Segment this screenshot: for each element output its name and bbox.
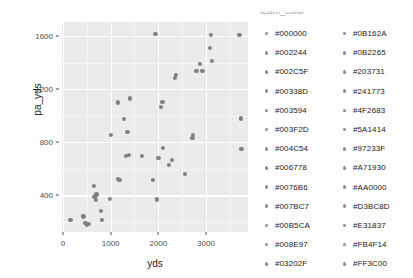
y-tick-label: 400 bbox=[40, 191, 53, 200]
x-tick-label: 0 bbox=[61, 239, 65, 248]
data-point bbox=[174, 72, 178, 76]
legend-item-label: #AA0000 bbox=[353, 183, 387, 192]
legend-key-point-icon bbox=[336, 159, 353, 176]
legend-key-point-icon bbox=[258, 25, 275, 42]
grid-line-minor-vertical bbox=[230, 22, 231, 232]
x-axis-title: yds bbox=[62, 258, 248, 269]
legend-item[interactable]: #241773 bbox=[336, 82, 413, 101]
legend-key-point-icon bbox=[258, 83, 275, 100]
legend-item[interactable]: #5A1414 bbox=[336, 120, 413, 139]
y-tick-label: 800 bbox=[40, 138, 53, 147]
x-tick-label: 1000 bbox=[102, 239, 120, 248]
legend-key-point-icon bbox=[336, 121, 353, 138]
x-tick-mark bbox=[158, 232, 159, 235]
legend-item-label: #003594 bbox=[275, 106, 307, 115]
data-point bbox=[125, 130, 129, 134]
legend-key-point-icon bbox=[258, 236, 275, 253]
legend-key-point-icon bbox=[336, 255, 353, 272]
legend-item[interactable]: #0B162A bbox=[336, 24, 413, 43]
data-point bbox=[200, 69, 204, 73]
legend-item[interactable]: #00B5CA bbox=[258, 216, 336, 235]
data-point bbox=[140, 153, 144, 157]
legend-key-point-icon bbox=[336, 140, 353, 157]
legend-item[interactable]: #D3BC8D bbox=[336, 197, 413, 216]
legend-item-label: #002244 bbox=[275, 48, 307, 57]
legend-key-point-icon bbox=[336, 198, 353, 215]
data-point bbox=[92, 184, 96, 188]
legend-item[interactable]: #FB4F14 bbox=[336, 235, 413, 254]
legend-item[interactable]: #0076B6 bbox=[258, 178, 336, 197]
legend-item[interactable]: #00338D bbox=[258, 82, 336, 101]
legend-item-label: #008E97 bbox=[275, 240, 308, 249]
legend-item-label: #203731 bbox=[353, 67, 385, 76]
data-point bbox=[109, 133, 113, 137]
legend-item[interactable]: #002C5F bbox=[258, 62, 336, 81]
legend-items: #000000#002244#002C5F#00338D#003594#003F… bbox=[258, 24, 413, 273]
legend-key-point-icon bbox=[258, 217, 275, 234]
legend-item-label: #0B162A bbox=[353, 29, 387, 38]
data-point bbox=[159, 105, 163, 109]
legend-item[interactable]: #007BC7 bbox=[258, 197, 336, 216]
data-point bbox=[239, 147, 243, 151]
legend-item-label: #97233F bbox=[353, 144, 385, 153]
data-point bbox=[151, 177, 155, 181]
data-point bbox=[208, 46, 212, 50]
legend-item[interactable]: #03202F bbox=[258, 254, 336, 273]
legend-item[interactable]: #003F2D bbox=[258, 120, 336, 139]
y-tick-mark bbox=[56, 195, 59, 196]
y-tick-mark bbox=[56, 35, 59, 36]
grid-line-major-vertical bbox=[63, 22, 64, 232]
data-point bbox=[128, 96, 132, 100]
figure: pa_yds yds 40080012001600 0100020003000 … bbox=[0, 0, 413, 278]
legend-item[interactable]: #003594 bbox=[258, 101, 336, 120]
data-point bbox=[160, 100, 164, 104]
data-point bbox=[156, 156, 160, 160]
legend-item[interactable]: #FF3C00 bbox=[336, 254, 413, 273]
legend-item[interactable]: #002244 bbox=[258, 43, 336, 62]
data-point bbox=[117, 178, 121, 182]
legend-item-label: #00B5CA bbox=[275, 221, 310, 230]
legend-key-point-icon bbox=[336, 102, 353, 119]
legend-item[interactable]: #006778 bbox=[258, 158, 336, 177]
legend-item[interactable]: #008E97 bbox=[258, 235, 336, 254]
legend-key-point-icon bbox=[258, 44, 275, 61]
legend-key-point-icon bbox=[258, 121, 275, 138]
legend-item-label: #D3BC8D bbox=[353, 202, 390, 211]
legend-item-label: #FF3C00 bbox=[353, 259, 387, 268]
data-point bbox=[94, 198, 98, 202]
legend-item-label: #00338D bbox=[275, 87, 308, 96]
grid-line-minor-vertical bbox=[134, 22, 135, 232]
legend-item[interactable]: #0B2265 bbox=[336, 43, 413, 62]
grid-line-major-horizontal bbox=[62, 195, 248, 196]
grid-line-major-horizontal bbox=[62, 89, 248, 90]
plot-area: pa_yds yds 40080012001600 0100020003000 bbox=[0, 0, 256, 278]
y-tick-mark bbox=[56, 142, 59, 143]
legend-item[interactable]: #AA0000 bbox=[336, 178, 413, 197]
legend-key-point-icon bbox=[336, 217, 353, 234]
legend-item[interactable]: #97233F bbox=[336, 139, 413, 158]
x-tick-label: 2000 bbox=[149, 239, 167, 248]
legend-item[interactable]: #A71930 bbox=[336, 158, 413, 177]
legend-item[interactable]: #004C54 bbox=[258, 139, 336, 158]
x-tick-mark bbox=[62, 232, 63, 235]
data-point bbox=[161, 146, 165, 150]
x-tick-mark bbox=[110, 232, 111, 235]
grid-line-minor-vertical bbox=[182, 22, 183, 232]
grid-line-minor-vertical bbox=[87, 22, 88, 232]
legend-key-point-icon bbox=[336, 83, 353, 100]
grid-line-minor-horizontal bbox=[62, 116, 248, 117]
legend-item[interactable]: #203731 bbox=[336, 62, 413, 81]
data-point bbox=[239, 116, 243, 120]
legend-item[interactable]: #E31837 bbox=[336, 216, 413, 235]
data-point bbox=[122, 117, 126, 121]
data-point bbox=[127, 153, 131, 157]
legend-item-label: #0B2265 bbox=[353, 48, 386, 57]
legend-key-point-icon bbox=[258, 159, 275, 176]
legend-item-label: #241773 bbox=[353, 87, 385, 96]
legend-item-label: #004C54 bbox=[275, 144, 308, 153]
legend-item-label: #A71930 bbox=[353, 163, 386, 172]
legend-item[interactable]: #000000 bbox=[258, 24, 336, 43]
y-tick-mark bbox=[56, 89, 59, 90]
legend-item-label: #007BC7 bbox=[275, 202, 309, 211]
legend-item[interactable]: #4F2683 bbox=[336, 101, 413, 120]
